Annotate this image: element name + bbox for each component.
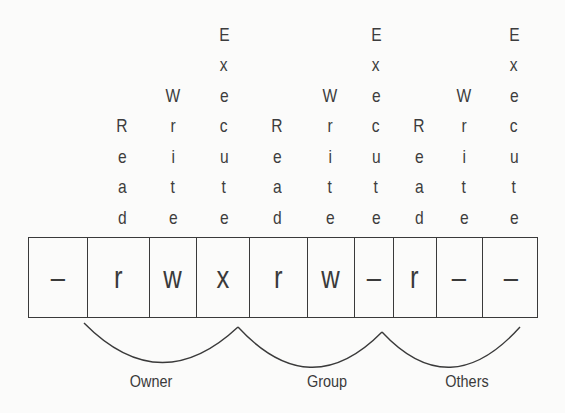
bracket-others xyxy=(382,327,520,367)
group-label-others: Others xyxy=(445,372,488,392)
group-label-owner: Owner xyxy=(130,372,173,392)
permission-diagram: ReadWriteExecuteReadWriteExecuteReadWrit… xyxy=(0,0,565,413)
group-brackets xyxy=(0,0,565,413)
bracket-group xyxy=(238,327,382,367)
group-label-group: Group xyxy=(307,372,347,392)
bracket-owner xyxy=(84,323,238,363)
